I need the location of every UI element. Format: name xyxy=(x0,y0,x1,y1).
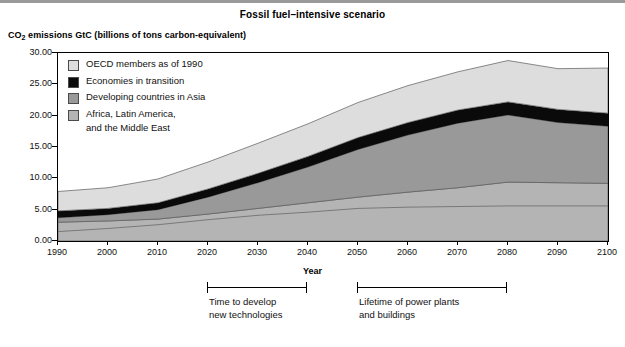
timeline-annotations: Time to develop new technologiesLifetime… xyxy=(0,282,625,344)
legend-item: Developing countries in Asia xyxy=(68,90,205,105)
chart-legend: OECD members as of 1990Economies in tran… xyxy=(68,57,205,138)
y-axis-title: CO2 emissions GtC (billions of tons carb… xyxy=(8,30,246,40)
subscript-2: 2 xyxy=(22,34,26,41)
annotation-label: Lifetime of power plants and buildings xyxy=(357,296,507,321)
x-axis-title: Year xyxy=(0,266,625,276)
bracket-bar xyxy=(357,287,507,288)
bracket-icon xyxy=(357,282,507,293)
y-tick-label: 5.00 xyxy=(6,204,52,214)
y-tick-label: 15.00 xyxy=(6,141,52,151)
y-tick-label: 25.00 xyxy=(6,78,52,88)
legend-swatch-icon xyxy=(68,77,79,88)
legend-label: Africa, Latin America, and the Middle Ea… xyxy=(86,107,176,136)
chart-title: Fossil fuel–intensive scenario xyxy=(0,9,625,20)
legend-label: Economies in transition xyxy=(86,74,184,89)
x-tick-label: 2100 xyxy=(587,247,625,257)
legend-item: Economies in transition xyxy=(68,74,205,89)
legend-swatch-icon xyxy=(68,110,79,121)
y-tick-label: 10.00 xyxy=(6,172,52,182)
legend-item: OECD members as of 1990 xyxy=(68,57,205,72)
x-tick-label: 2030 xyxy=(237,247,277,257)
x-tick-label: 2090 xyxy=(537,247,577,257)
legend-label: OECD members as of 1990 xyxy=(86,57,203,72)
annotation-bracket-group: Lifetime of power plants and buildings xyxy=(357,282,507,321)
y-tick-label: 30.00 xyxy=(6,47,52,57)
x-tick-label: 2080 xyxy=(487,247,527,257)
annotation-bracket-group: Time to develop new technologies xyxy=(207,282,307,321)
bracket-cap-right xyxy=(506,282,507,293)
bracket-icon xyxy=(207,282,307,293)
x-tick-label: 2070 xyxy=(437,247,477,257)
y-axis-title-rest: emissions GtC (billions of tons carbon-e… xyxy=(26,30,247,40)
legend-item: Africa, Latin America, and the Middle Ea… xyxy=(68,107,205,136)
annotation-label: Time to develop new technologies xyxy=(207,296,307,321)
y-tick-label: 20.00 xyxy=(6,110,52,120)
x-tick-label: 2040 xyxy=(287,247,327,257)
x-tick-label: 2010 xyxy=(137,247,177,257)
bracket-cap-right xyxy=(306,282,307,293)
x-axis-labels: 1990200020102020203020402050206020702080… xyxy=(0,247,625,261)
bracket-bar xyxy=(207,287,307,288)
x-tick-label: 2000 xyxy=(87,247,127,257)
x-tick-label: 2050 xyxy=(337,247,377,257)
x-tick-label: 2020 xyxy=(187,247,227,257)
bracket-cap-left xyxy=(357,282,358,293)
legend-swatch-icon xyxy=(68,60,79,71)
legend-label: Developing countries in Asia xyxy=(86,90,205,105)
x-tick-label: 1990 xyxy=(37,247,77,257)
bracket-cap-left xyxy=(207,282,208,293)
legend-swatch-icon xyxy=(68,93,79,104)
top-divider xyxy=(0,0,625,3)
x-tick-label: 2060 xyxy=(387,247,427,257)
